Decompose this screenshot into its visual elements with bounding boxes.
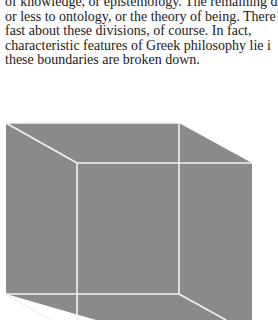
cube-silhouette (6, 123, 252, 320)
cube-figure (0, 0, 278, 320)
